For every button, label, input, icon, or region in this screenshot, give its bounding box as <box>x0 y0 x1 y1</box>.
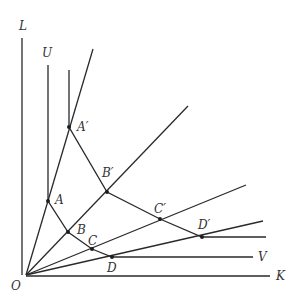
isoquant-label-u: U <box>42 46 53 60</box>
point-c-prime <box>158 217 162 221</box>
axis-label-l: L <box>18 19 27 33</box>
point-label-d: D <box>106 261 117 275</box>
point-b <box>66 230 70 234</box>
point-label-b: B <box>76 223 86 237</box>
isoquant-diagram: ABCDA′B′C′D′ L U V K O <box>0 0 301 305</box>
point-label-d-prime: D′ <box>197 218 211 232</box>
point-a-prime <box>67 125 71 129</box>
isoquant-label-v: V <box>258 250 268 264</box>
point-b-prime <box>105 190 109 194</box>
point-label-a-prime: A′ <box>76 120 89 134</box>
point-label-a: A <box>54 193 64 207</box>
labels: L U V K O <box>11 19 286 293</box>
point-d-prime <box>200 235 204 239</box>
isoquant-upper <box>69 70 266 237</box>
point-label-b-prime: B′ <box>101 166 114 180</box>
rays <box>26 49 263 275</box>
axis-label-k: K <box>275 269 286 283</box>
point-label-c: C <box>88 234 97 248</box>
point-a <box>46 199 50 203</box>
point-label-c-prime: C′ <box>154 202 166 216</box>
point-d <box>110 255 114 259</box>
origin-label-o: O <box>11 279 21 293</box>
ray-4 <box>26 221 263 275</box>
ray-1 <box>26 49 93 275</box>
